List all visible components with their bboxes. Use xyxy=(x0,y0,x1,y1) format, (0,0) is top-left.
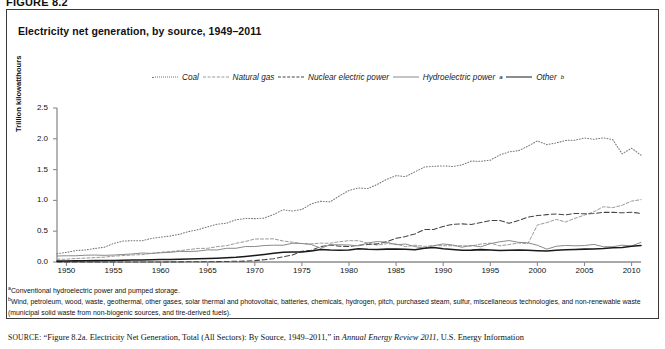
source-publication: Annual Energy Review 2011 xyxy=(342,333,437,342)
footnote-b: bWind, petroleum, wood, waste, geotherma… xyxy=(8,296,656,317)
footnotes-block: aConventional hydroelectric power and pu… xyxy=(8,285,656,318)
source-quoted: “Figure 8.2a. Electricity Net Generation… xyxy=(44,333,332,342)
source-connector: in xyxy=(331,333,342,342)
series-line-hydroelectric-power xyxy=(57,241,641,256)
source-line: SOURCE: “Figure 8.2a. Electricity Net Ge… xyxy=(8,333,660,344)
series-line-coal xyxy=(57,138,641,254)
footnote-text-a: Conventional hydroelectric power and pum… xyxy=(11,287,180,294)
footnote-text-b: Wind, petroleum, wood, waste, geothermal… xyxy=(8,299,641,316)
source-tail: , U.S. Energy Information xyxy=(437,333,524,342)
footnote-a: aConventional hydroelectric power and pu… xyxy=(8,285,656,296)
source-prefix: SOURCE: xyxy=(8,333,41,342)
